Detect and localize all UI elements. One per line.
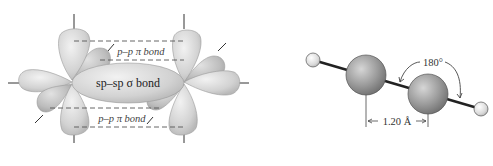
bond-angle-label: 180° [423, 57, 443, 68]
hydrogen-atom-right [474, 102, 488, 116]
carbon-atom-right [408, 74, 448, 114]
bond-length-label: 1.20 Å [383, 116, 412, 127]
orbital-diagram: sp–sp σ bond p–p π bond p–p π bond [8, 14, 249, 143]
pi-bond-label-top: p–p π bond [116, 46, 165, 57]
diagram-canvas: sp–sp σ bond p–p π bond p–p π bond 180° … [0, 0, 493, 166]
hydrogen-atom-left [306, 53, 320, 67]
sigma-bond-label: sp–sp σ bond [96, 76, 160, 90]
pi-bond-label-bottom: p–p π bond [97, 113, 146, 124]
bond-axis [313, 60, 481, 109]
acetylene-model: 180° 1.20 Å [306, 53, 488, 127]
carbon-atom-left [346, 55, 386, 95]
